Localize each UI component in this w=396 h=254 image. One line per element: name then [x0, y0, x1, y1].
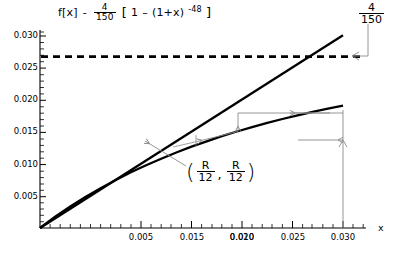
- series-line-identity: [40, 35, 343, 228]
- y-tick-label-0015: 0.015: [2, 126, 38, 136]
- x-tick-label-0030: 0.030: [325, 232, 361, 242]
- annotation-x-denominator: 12: [197, 171, 215, 183]
- y-tick-label-0025: 0.025: [2, 62, 38, 72]
- annotation-fraction-y: R 12: [227, 160, 245, 183]
- plot-area: [0, 0, 396, 254]
- y-axis-ticks: [40, 32, 46, 222]
- x-axis-label: x: [378, 222, 384, 233]
- annotation-y-numerator: R: [230, 160, 242, 171]
- annotation-paren-close: ): [247, 161, 256, 183]
- asymptote-pointer-line: [352, 24, 368, 56]
- gap-arrow-left-lower: [197, 132, 238, 142]
- axes: [40, 30, 366, 228]
- y-tick-label-0030: 0.030: [2, 30, 38, 40]
- y-tick-label-0010: 0.010: [2, 159, 38, 169]
- x-tick-label-0025: 0.025: [275, 232, 311, 242]
- chart-root: f[x] - 4 150 [ 1 – (1+x) -48 ] 4 150: [0, 0, 396, 254]
- annotation-paren-open: (: [186, 161, 195, 183]
- x-tick-label-0020-dup: 0.020: [224, 232, 260, 242]
- annotation-y-denominator: 12: [227, 171, 245, 183]
- x-tick-label-0005: 0.005: [123, 232, 159, 242]
- x-tick-label-0015: 0.015: [174, 232, 210, 242]
- annotation-comma: ,: [217, 167, 225, 182]
- annotation-x-numerator: R: [200, 160, 212, 171]
- intersection-annotation: ( R 12 , R 12 ): [186, 160, 255, 183]
- annotation-fraction-x: R 12: [197, 160, 215, 183]
- y-tick-label-0005: 0.005: [2, 191, 38, 201]
- y-tick-label-0020: 0.020: [2, 94, 38, 104]
- x-axis-ticks: [50, 221, 363, 228]
